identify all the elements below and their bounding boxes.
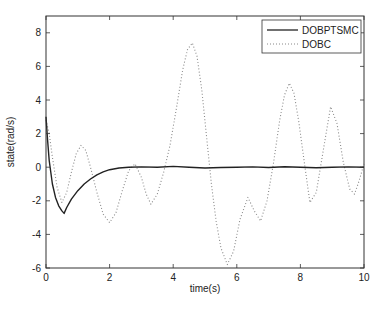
legend-label-dobc: DOBC	[302, 39, 331, 50]
x-tick-label: 8	[298, 272, 304, 283]
x-tick-label: 4	[170, 272, 176, 283]
y-tick-label: 2	[35, 128, 41, 139]
x-tick-label: 10	[358, 272, 370, 283]
y-tick-label: -2	[32, 195, 41, 206]
line-chart: 0246810-6-4-202468 time(s) state(rad/s) …	[0, 0, 388, 309]
y-tick-label: -6	[32, 263, 41, 274]
y-tick-label: 8	[35, 27, 41, 38]
y-tick-label: 6	[35, 61, 41, 72]
x-tick-label: 2	[107, 272, 113, 283]
legend-label-dobptsmc: DOBPTSMC	[302, 25, 359, 36]
legend: DOBPTSMC DOBC	[262, 20, 361, 53]
y-tick-label: 4	[35, 95, 41, 106]
x-tick-label: 0	[43, 272, 49, 283]
x-tick-label: 6	[234, 272, 240, 283]
y-tick-label: 0	[35, 162, 41, 173]
x-axis-label: time(s)	[190, 283, 221, 294]
y-axis-label: state(rad/s)	[5, 117, 16, 168]
y-tick-label: -4	[32, 229, 41, 240]
